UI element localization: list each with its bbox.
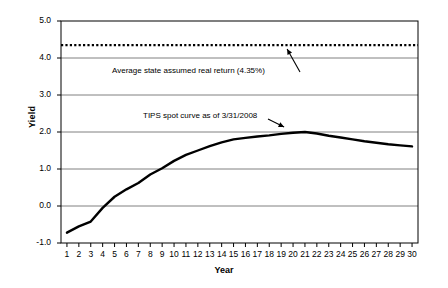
- chart-figure: Yield Year -1.00.01.02.03.04.05.0 123456…: [0, 0, 448, 288]
- gridlines: [61, 58, 418, 206]
- plot-area: [0, 0, 448, 288]
- annotation-arrows: [268, 49, 300, 127]
- annotation-assumed-return: Average state assumed real return (4.35%…: [112, 66, 265, 75]
- annotation-tips-curve: TIPS spot curve as of 3/31/2008: [143, 111, 257, 120]
- axis-tick-marks: [57, 21, 412, 247]
- y-tick-2.0: 2.0: [23, 126, 51, 136]
- y-tick-4.0: 4.0: [23, 52, 51, 62]
- y-tick-0.0: 0.0: [23, 200, 51, 210]
- y-tick-3.0: 3.0: [23, 89, 51, 99]
- x-tick-30: 30: [404, 249, 420, 259]
- y-tick-1.0: 1.0: [23, 163, 51, 173]
- y-tick--1.0: -1.0: [23, 237, 51, 247]
- y-tick-5.0: 5.0: [23, 15, 51, 25]
- x-axis-label: Year: [0, 265, 448, 275]
- tips-spot-curve-line: [67, 132, 412, 233]
